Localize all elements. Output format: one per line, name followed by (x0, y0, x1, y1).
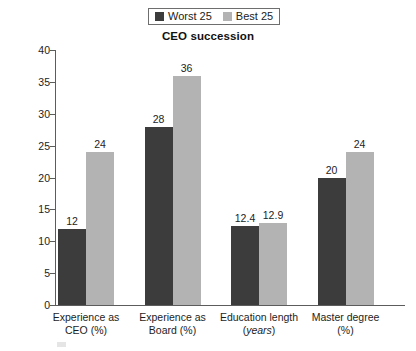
bar-worst-25-0 (58, 229, 86, 306)
category-label-line2-3: (%) (291, 324, 401, 337)
bar-best-25-0 (86, 152, 114, 305)
bar-worst-25-2 (231, 226, 259, 305)
bar-best-25-1 (173, 76, 201, 306)
bar-value-label-best-25-1: 36 (165, 62, 209, 74)
bar-value-label-best-25-0: 24 (78, 138, 122, 150)
ceo-succession-chart: Worst 25 Best 25 CEO succession 05101520… (0, 0, 416, 351)
bar-value-label-best-25-3: 24 (338, 138, 382, 150)
category-label-3: Master degree(%) (291, 311, 401, 337)
category-label-unit-2: years (246, 324, 272, 336)
scan-artifact (57, 342, 66, 347)
category-label-line1-3: Master degree (291, 311, 401, 324)
bar-value-label-best-25-2: 12.9 (251, 209, 295, 221)
bar-best-25-3 (346, 152, 374, 305)
bar-worst-25-3 (318, 178, 346, 306)
bar-worst-25-1 (145, 127, 173, 306)
bar-best-25-2 (259, 223, 287, 305)
bars-layer: 1224283612.412.92024 (0, 0, 416, 351)
